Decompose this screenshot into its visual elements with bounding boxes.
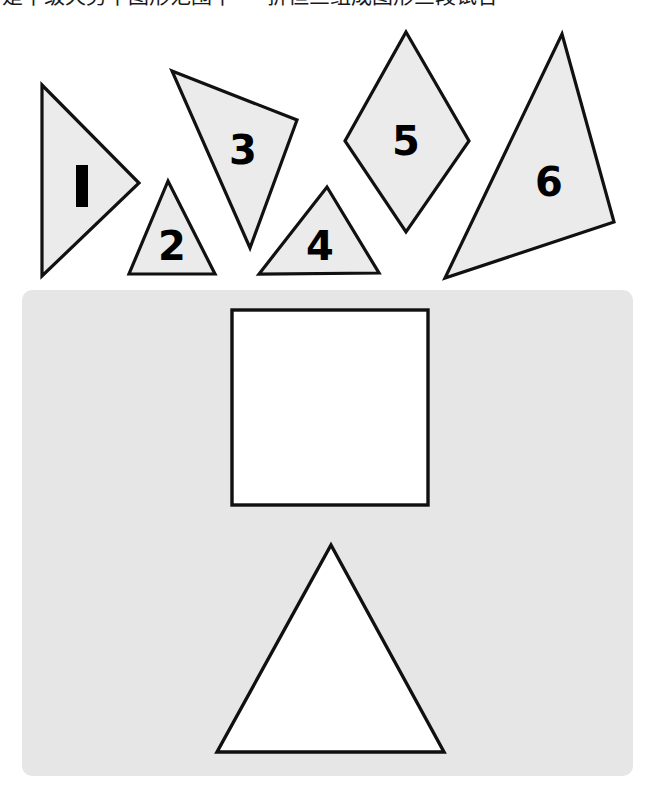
- shape-pieces-tray: 2 3 4 5 6: [42, 32, 614, 278]
- target-square[interactable]: [232, 310, 428, 505]
- piece-1-outline[interactable]: [42, 85, 139, 276]
- piece-6-outline[interactable]: [445, 34, 614, 278]
- piece-5-label: 5: [392, 118, 420, 164]
- piece-2-label: 2: [158, 223, 186, 269]
- piece-3-label: 3: [229, 127, 257, 173]
- piece-1[interactable]: [42, 85, 139, 276]
- target-outline-panel: [22, 290, 633, 776]
- piece-1-label: [76, 165, 88, 207]
- shapes-canvas: 2 3 4 5 6: [0, 0, 655, 794]
- piece-5[interactable]: 5: [345, 32, 469, 232]
- piece-2[interactable]: 2: [129, 181, 215, 274]
- piece-6[interactable]: 6: [445, 34, 614, 278]
- piece-4-label: 4: [306, 223, 334, 269]
- piece-6-label: 6: [535, 159, 563, 205]
- worksheet-stage: 是中级天势中图形范围中 — 折但三组成图形三段试合 2 3 4: [0, 0, 655, 794]
- piece-3[interactable]: 3: [172, 71, 297, 248]
- piece-4[interactable]: 4: [259, 187, 379, 274]
